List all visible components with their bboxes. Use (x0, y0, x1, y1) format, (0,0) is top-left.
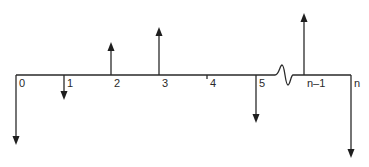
arrow-up-icon (301, 13, 308, 22)
period-label: 3 (162, 77, 168, 89)
period-label: 4 (210, 77, 216, 89)
period-2 (108, 42, 115, 75)
period-label: 5 (259, 77, 265, 89)
cash-flow-arrows (13, 13, 355, 158)
period-label: 2 (114, 77, 120, 89)
arrow-down-icon (13, 136, 20, 145)
period-label: n (354, 77, 360, 89)
period-labels: 012345n–1n (19, 77, 360, 89)
cash-flow-diagram: 012345n–1n (0, 0, 369, 167)
arrow-down-icon (253, 114, 260, 123)
arrow-down-icon (61, 91, 68, 100)
period-n-minus-1 (301, 13, 308, 75)
period-label: n–1 (307, 77, 325, 89)
period-label: 0 (19, 77, 25, 89)
period-label: 1 (67, 77, 73, 89)
arrow-up-icon (108, 42, 115, 51)
arrow-up-icon (156, 27, 163, 36)
period-3 (156, 27, 163, 75)
arrow-down-icon (348, 149, 355, 158)
